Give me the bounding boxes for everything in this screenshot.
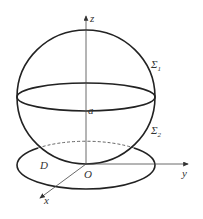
sigma1-label: Σ1 — [150, 58, 161, 73]
radius-label: a — [88, 104, 94, 116]
origin-label: O — [84, 168, 92, 180]
disk-back-right — [134, 148, 155, 165]
sigma2-label: Σ2 — [150, 124, 162, 139]
y-axis-label: y — [181, 167, 187, 179]
sphere-diagram: z y x O a D Σ1 Σ2 — [0, 0, 203, 219]
disk-back-left — [17, 148, 38, 165]
z-axis-label: z — [89, 12, 95, 24]
region-label: D — [39, 159, 48, 171]
x-axis-label: x — [43, 194, 49, 206]
